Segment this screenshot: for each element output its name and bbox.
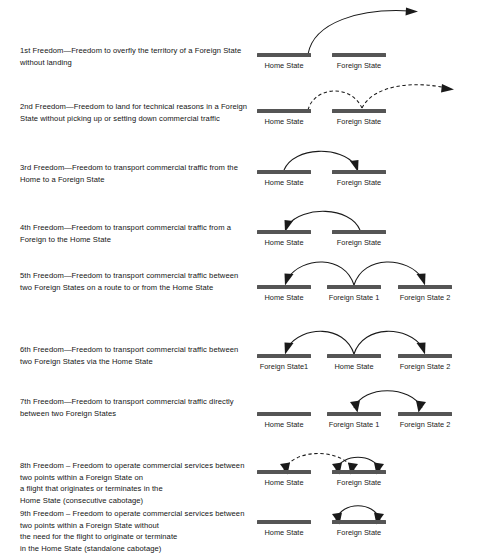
technical-stop-arc-in — [308, 91, 362, 110]
state-bar-foreign — [332, 470, 386, 474]
state-label-foreign: Foreign State — [325, 528, 393, 537]
state-label-foreign-1: Foreign State1 — [250, 362, 318, 371]
freedom-row-1: 1st Freedom—Freedom to overfly the terri… — [0, 0, 483, 75]
state-bar-foreign — [332, 53, 386, 57]
arrowhead-down-right-icon — [416, 401, 426, 413]
state-bar-home — [257, 230, 311, 234]
state-label-home: Home State — [250, 528, 318, 537]
freedom-9-description: 9th Freedom – Freedom to operate commerc… — [20, 508, 248, 554]
state-bar-foreign-1 — [327, 285, 381, 289]
state-label-foreign: Foreign State — [325, 117, 393, 126]
foreign1-to-home-arc — [288, 262, 354, 285]
foreign-to-home-arc — [288, 211, 360, 230]
overfly-arc — [308, 11, 410, 54]
state-label-home: Home State — [250, 293, 318, 302]
state-label-foreign-1: Foreign State 1 — [320, 420, 388, 429]
state-bar-home — [257, 109, 311, 113]
state-bar-foreign-2 — [398, 354, 452, 358]
freedom-6-description: 6th Freedom—Freedom to transport commerc… — [20, 344, 248, 367]
technical-stop-arc-out — [362, 85, 446, 108]
freedom-2-arrows — [250, 75, 483, 140]
arrowhead-down-right-icon — [417, 274, 426, 286]
state-label-foreign-1: Foreign State 1 — [320, 293, 388, 302]
freedom-row-2: 2nd Freedom—Freedom to land for technica… — [0, 75, 483, 140]
foreign1-foreign2-arc — [354, 391, 422, 408]
arrowhead-down-left-icon — [285, 343, 294, 355]
arrowhead-right-icon — [441, 84, 454, 93]
state-bar-foreign — [332, 170, 386, 174]
home-to-foreign1-arc — [288, 331, 354, 354]
state-bar-home — [257, 53, 311, 57]
state-label-home: Home State — [320, 362, 388, 371]
freedom-row-5: 5th Freedom—Freedom to transport commerc… — [0, 260, 483, 322]
home-foreign-dashed-arc — [284, 454, 354, 471]
freedom-5-arrows — [250, 260, 483, 322]
state-label-home: Home State — [250, 178, 318, 187]
state-bar-home — [257, 170, 311, 174]
state-bar-foreign — [332, 520, 386, 524]
state-label-home: Home State — [250, 238, 318, 247]
state-label-foreign: Foreign State — [325, 61, 393, 70]
state-label-foreign-2: Foreign State 2 — [391, 362, 459, 371]
foreign-internal-arc — [336, 457, 380, 470]
state-bar-foreign — [332, 109, 386, 113]
foreign1-to-foreign2-arc — [354, 262, 422, 285]
home-to-foreign-arc — [284, 151, 355, 170]
freedom-row-3: 3rd Freedom—Freedom to transport commerc… — [0, 140, 483, 200]
home-to-foreign2-arc — [354, 331, 422, 354]
freedom-4-description: 4th Freedom—Freedom to transport commerc… — [20, 222, 248, 245]
state-label-foreign: Foreign State — [325, 238, 393, 247]
state-label-home: Home State — [250, 117, 318, 126]
state-bar-home — [257, 470, 311, 474]
freedom-row-9: 9th Freedom – Freedom to operate commerc… — [0, 500, 483, 545]
freedom-row-4: 4th Freedom—Freedom to transport commerc… — [0, 200, 483, 260]
freedom-5-description: 5th Freedom—Freedom to transport commerc… — [20, 270, 248, 293]
state-label-foreign: Foreign State — [325, 478, 393, 487]
state-bar-home — [257, 412, 311, 416]
state-bar-foreign-1 — [327, 412, 381, 416]
state-label-foreign-2: Foreign State 2 — [391, 420, 459, 429]
arrowhead-down-left-icon — [350, 401, 360, 413]
freedom-6-arrows — [250, 322, 483, 384]
state-bar-home — [257, 520, 311, 524]
state-bar-foreign-1 — [257, 354, 311, 358]
state-bar-home — [327, 354, 381, 358]
state-label-foreign: Foreign State — [325, 178, 393, 187]
freedom-row-7: 7th Freedom—Freedom to transport commerc… — [0, 384, 483, 446]
freedom-row-6: 6th Freedom—Freedom to transport commerc… — [0, 322, 483, 384]
arrowhead-down-left-icon — [285, 274, 294, 286]
arrowhead-right-icon — [406, 8, 419, 16]
freedom-3-description: 3rd Freedom—Freedom to transport commerc… — [20, 162, 248, 185]
state-label-home: Home State — [250, 478, 318, 487]
state-bar-foreign — [332, 230, 386, 234]
state-bar-foreign-2 — [398, 412, 452, 416]
state-label-home: Home State — [250, 420, 318, 429]
state-bar-foreign-2 — [398, 285, 452, 289]
state-label-foreign-2: Foreign State 2 — [391, 293, 459, 302]
state-bar-home — [257, 285, 311, 289]
arrowhead-down-right-icon — [417, 343, 426, 355]
freedom-1-description: 1st Freedom—Freedom to overfly the terri… — [20, 45, 248, 68]
freedom-2-description: 2nd Freedom—Freedom to land for technica… — [20, 101, 248, 124]
state-label-home: Home State — [250, 61, 318, 70]
freedom-7-description: 7th Freedom—Freedom to transport commerc… — [20, 396, 248, 419]
foreign-internal-arc — [336, 506, 380, 520]
